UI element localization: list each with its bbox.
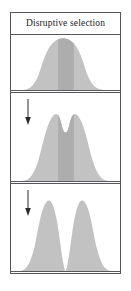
panel-initial-population <box>11 35 120 93</box>
curve-area-fill-left <box>20 200 65 271</box>
panel-selection-against-intermediate <box>11 93 120 184</box>
bimodal-partial-distribution-chart <box>11 93 120 183</box>
center-band-highlight <box>58 35 74 92</box>
curve-area-fill-right <box>66 200 111 271</box>
bimodal-separated-distribution-chart <box>11 184 120 273</box>
page-title: Disruptive selection <box>26 19 105 29</box>
unimodal-distribution-chart <box>11 35 120 92</box>
disruptive-selection-figure: Disruptive selection <box>10 12 121 274</box>
center-band-highlight <box>58 93 74 183</box>
figure-title-bar: Disruptive selection <box>11 13 120 35</box>
panel-divergent-population <box>11 184 120 273</box>
